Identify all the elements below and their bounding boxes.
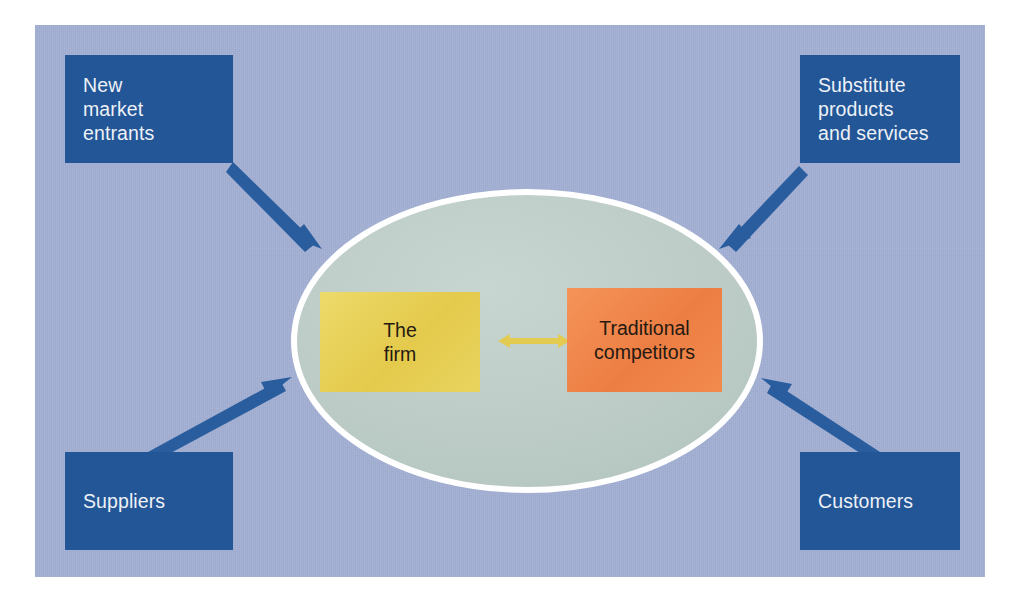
- force-box-suppliers[interactable]: Suppliers: [65, 452, 233, 550]
- diagram-canvas: New market entrants Substitute products …: [0, 0, 1018, 602]
- core-label-traditional-competitors: Traditional competitors: [594, 316, 695, 364]
- arrow-new-market-entrants: [226, 162, 322, 252]
- force-label-suppliers: Suppliers: [83, 489, 165, 513]
- force-box-new-market-entrants[interactable]: New market entrants: [65, 55, 233, 163]
- force-box-substitute-products[interactable]: Substitute products and services: [800, 55, 960, 163]
- arrow-substitute-products: [719, 166, 808, 252]
- core-box-the-firm[interactable]: The firm: [320, 292, 480, 392]
- core-label-the-firm: The firm: [383, 318, 417, 366]
- force-label-customers: Customers: [818, 489, 913, 513]
- force-box-customers[interactable]: Customers: [800, 452, 960, 550]
- arrow-customers: [761, 378, 880, 462]
- arrow-suppliers: [148, 377, 292, 462]
- core-box-traditional-competitors[interactable]: Traditional competitors: [567, 288, 722, 392]
- force-label-new-market-entrants: New market entrants: [83, 73, 154, 146]
- force-label-substitute-products: Substitute products and services: [818, 73, 929, 146]
